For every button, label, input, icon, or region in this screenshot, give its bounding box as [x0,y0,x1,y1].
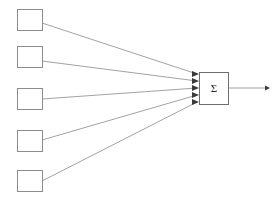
input-box-3[interactable] [18,89,43,110]
summation-diagram: Σ [0,0,280,206]
input-box-2[interactable] [18,47,43,68]
edge-input-1-to-sum [42,23,197,74]
sigma-icon: Σ [211,82,217,94]
input-arrowhead-group [192,71,199,105]
input-box-5[interactable] [18,171,43,192]
input-box-4[interactable] [18,131,43,152]
edge-group [42,23,197,181]
diagram-canvas: Σ [0,0,280,206]
input-box-group [18,10,43,192]
arrowhead-output [265,86,270,91]
edge-input-4-to-sum [42,95,197,140]
edge-input-2-to-sum [42,61,197,81]
input-box-1[interactable] [18,10,43,31]
arrowhead-input-3 [192,85,199,91]
arrowhead-input-5 [192,99,199,105]
arrowhead-input-2 [192,78,199,84]
arrowhead-input-1 [192,71,199,77]
edge-input-5-to-sum [42,102,197,181]
arrowhead-input-4 [192,92,199,98]
edge-input-3-to-sum [42,88,197,99]
